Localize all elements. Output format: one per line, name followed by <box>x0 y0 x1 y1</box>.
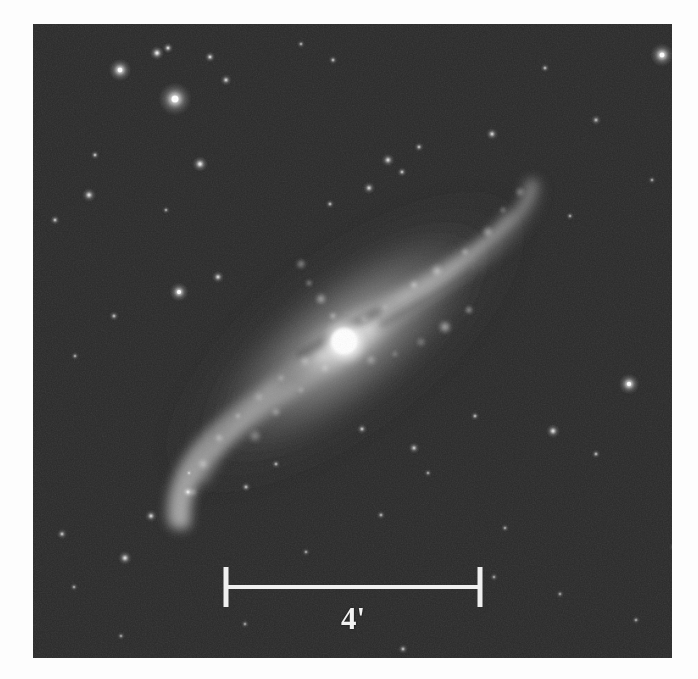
astronomical-image-panel: 4' <box>33 24 672 658</box>
figure-page: 4' <box>0 0 698 679</box>
scale-bar-label: 4' <box>34 603 673 634</box>
scale-bar-tick-left <box>224 567 229 607</box>
sky-field-canvas <box>33 24 672 658</box>
film-grain-overlay <box>33 24 672 658</box>
scale-bar-tick-right <box>478 567 483 607</box>
scale-bar-line <box>226 585 480 589</box>
